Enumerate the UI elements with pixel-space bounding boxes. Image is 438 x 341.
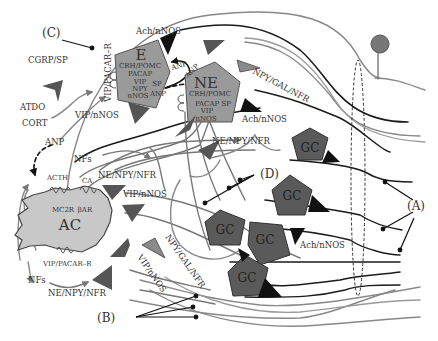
cell-NE-line-1: CRH/POMC xyxy=(189,90,231,98)
terminal-cgrp-sp xyxy=(42,80,63,102)
label-ne-npy-nfr-mid: NE/NPY/NFR xyxy=(98,170,156,180)
label-ach-nnos-right: Ach/nNOS xyxy=(241,114,287,124)
nerve-fibers xyxy=(18,12,425,326)
neuron-cell-body xyxy=(371,35,389,53)
panel-label-b: (B) xyxy=(97,311,115,325)
gc-cell-3: GC xyxy=(205,210,245,245)
label-vip-nnos-top: VIP/nNOS xyxy=(74,110,119,120)
label-nfs-top: NFs xyxy=(74,154,92,164)
label-vip-nnos-mid: VIP/nNOS xyxy=(122,189,167,199)
label-cort: CORT xyxy=(22,118,48,128)
terminal-vip-nnos-diag xyxy=(110,238,130,257)
cell-NE-line-4: nNOS xyxy=(195,115,216,123)
svg-text:GC: GC xyxy=(301,141,320,155)
panel-label-c: (C) xyxy=(42,26,61,40)
label-ach-nnos-top: Ach/nNOS xyxy=(135,26,181,36)
cell-E-side-sp: SP xyxy=(152,80,162,88)
label-cgrp-sp: CGRP/SP xyxy=(28,55,68,65)
label-anp-left: ANP xyxy=(44,137,65,147)
cell-E: E CRH/POMC PACAP VIP NPY nNOS SP ANP xyxy=(110,40,170,108)
cell-AC-title: AC xyxy=(58,216,81,234)
label-vip-pacar-r-vertical: VIP/PACAR–R xyxy=(103,43,113,103)
gc-cell-1: GC xyxy=(292,128,328,160)
terminal-gc2 xyxy=(308,195,330,212)
gc-cell-2: GC xyxy=(272,175,312,215)
svg-text:GC: GC xyxy=(216,223,235,237)
cell-NE-line-3: VIP xyxy=(200,107,214,115)
cell-AC: MC2R βAR AC xyxy=(15,186,112,253)
label-npy-gal-nfr-top: NPY/GAL/NFR xyxy=(251,66,312,105)
cell-E-line-1: CRH/POMC xyxy=(119,62,161,70)
svg-text:GC: GC xyxy=(283,189,302,203)
dashed-ellipse-boundary xyxy=(351,60,365,296)
terminal-top-1 xyxy=(203,40,225,55)
cell-E-line-2: PACAP xyxy=(128,70,153,78)
terminal-ach-right xyxy=(240,98,262,112)
label-acth: ACTH xyxy=(46,174,68,182)
svg-text:GC: GC xyxy=(256,233,275,247)
label-ca: CA xyxy=(82,177,93,185)
terminal-ne-npy-nfr-bottom xyxy=(92,265,112,290)
ac-receptor-bar: βAR xyxy=(78,206,93,214)
ac-receptor-mc2r: MC2R xyxy=(52,206,75,214)
label-ach-nnos-bottom: Ach/nNOS xyxy=(299,240,345,250)
panel-label-a: (A) xyxy=(407,199,425,213)
receptor-coil-NE xyxy=(178,95,184,111)
label-nfs-bottom: NFs xyxy=(28,275,46,285)
cell-E-line-5: nNOS xyxy=(127,92,148,100)
label-atdo: ATDO xyxy=(19,102,45,112)
panel-label-d: (D) xyxy=(260,167,279,181)
label-ne-npy-nfr-right: NE/NPY/NFR xyxy=(212,136,270,146)
label-ne-npy-nfr-bottom: NE/NPY/NFR xyxy=(48,288,106,298)
cell-E-side-anp: ANP xyxy=(149,90,166,98)
adrenal-innervation-diagram: E CRH/POMC PACAP VIP NPY nNOS SP ANP NE … xyxy=(0,0,438,341)
label-vip-pacar-r-bottom: VIP/PACAR–R xyxy=(42,260,92,268)
svg-text:GC: GC xyxy=(238,271,257,285)
